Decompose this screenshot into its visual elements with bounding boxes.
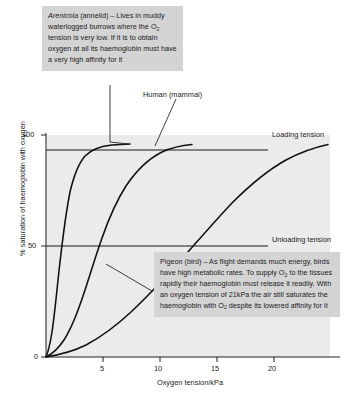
annotation-loading-tension: Loading tension: [272, 130, 324, 139]
callout-pigeon-sub-1: 2: [284, 272, 287, 278]
x-axis-title: Oxygen tension/kPa: [120, 378, 260, 387]
y-axis-title: % saturation of haemoglobin with oxygen: [18, 109, 27, 269]
callout-pigeon-text-3: despite its lowered affinity for it: [227, 301, 328, 310]
callout-arenicola: Arenicola (annelid) – Lives in muddy wat…: [42, 6, 183, 71]
callout-arenicola-species: Arenicola: [48, 11, 78, 20]
y-tick-label-0: 0: [34, 352, 38, 361]
annotation-human-mammal: Human (mammal): [143, 90, 202, 99]
callout-pigeon: Pigeon (bird) – As flight demands much e…: [154, 252, 340, 317]
x-tick-label-20: 20: [268, 364, 276, 373]
callout-arenicola-text-2: tension is very low. If it is to obtain …: [48, 33, 177, 64]
y-tick-label-50: 50: [28, 241, 36, 250]
x-tick-label-10: 10: [154, 364, 162, 373]
annotation-unloading-tension: Unloading tension: [272, 235, 331, 244]
x-tick-label-5: 5: [100, 364, 104, 373]
callout-arenicola-sub-1: 2: [157, 26, 160, 32]
x-tick-label-15: 15: [211, 364, 219, 373]
oxygen-dissociation-chart: 100 50 0 5 10 15 20 % saturation of haem…: [0, 0, 348, 397]
callout-pigeon-sub-2: 2: [224, 304, 227, 310]
